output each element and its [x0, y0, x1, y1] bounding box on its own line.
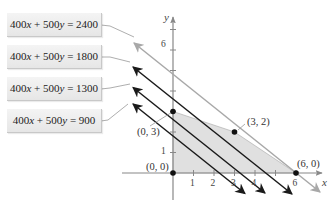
tick-label-x-1: 1: [190, 178, 195, 188]
point-0-3: [170, 109, 176, 115]
label-point-3-2: (3, 2): [247, 116, 270, 127]
point-6-0: [293, 170, 299, 176]
tick-label-y-1: 1: [161, 146, 166, 156]
label-point-6-0: (6, 0): [297, 158, 320, 169]
tick-label-x-6: 6: [293, 178, 298, 188]
point-3-2: [232, 129, 238, 135]
label-point-0-3: (0, 3): [137, 126, 160, 137]
y-axis-label: y: [164, 11, 169, 23]
equation-label-1300: 400x + 500y = 1300: [7, 77, 102, 101]
tick-label-x-4: 4: [252, 178, 257, 188]
label-point-0-0: (0, 0): [146, 161, 169, 172]
feasible-region: [173, 112, 296, 174]
equation-label-2400: 400x + 500y = 2400: [7, 13, 102, 37]
tick-label-x-2: 2: [211, 178, 216, 188]
x-axis-label: x: [322, 176, 327, 188]
point-0-0: [170, 170, 176, 176]
equation-label-1800: 400x + 500y = 1800: [7, 45, 102, 69]
equation-label-900: 400x + 500y = 900: [7, 109, 102, 133]
tick-label-x-3: 3: [231, 178, 236, 188]
tick-label-y-6: 6: [161, 39, 166, 49]
